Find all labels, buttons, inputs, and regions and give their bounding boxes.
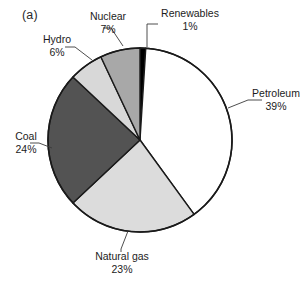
callout-coal-value: 24% — [8, 143, 44, 156]
callout-coal-label: Coal — [15, 130, 37, 142]
callout-hydro-value: 6% — [36, 46, 78, 59]
callout-nuclear-value: 7% — [83, 23, 133, 36]
pie-chart-figure: (a) Nuclear 7% Renewables 1% Hydro 6% Pe… — [0, 0, 306, 285]
panel-label: (a) — [22, 8, 38, 22]
callout-hydro: Hydro 6% — [36, 33, 78, 58]
callout-coal: Coal 24% — [8, 130, 44, 155]
callout-petroleum: Petroleum 39% — [248, 87, 304, 112]
callout-renewables-value: 1% — [155, 20, 225, 33]
callout-nuclear: Nuclear 7% — [83, 10, 133, 35]
callout-nuclear-label: Nuclear — [90, 10, 126, 22]
callout-hydro-label: Hydro — [43, 33, 71, 45]
callout-petroleum-value: 39% — [248, 100, 304, 113]
callout-natural-gas-value: 23% — [83, 263, 161, 276]
callout-renewables-label: Renewables — [161, 7, 219, 19]
callout-natural-gas-label: Natural gas — [95, 250, 149, 262]
callout-natural-gas: Natural gas 23% — [83, 250, 161, 275]
callout-renewables: Renewables 1% — [155, 7, 225, 32]
callout-petroleum-label: Petroleum — [252, 87, 300, 99]
pie-slice-group — [48, 48, 232, 232]
leader-line-natural-gas — [121, 231, 128, 252]
